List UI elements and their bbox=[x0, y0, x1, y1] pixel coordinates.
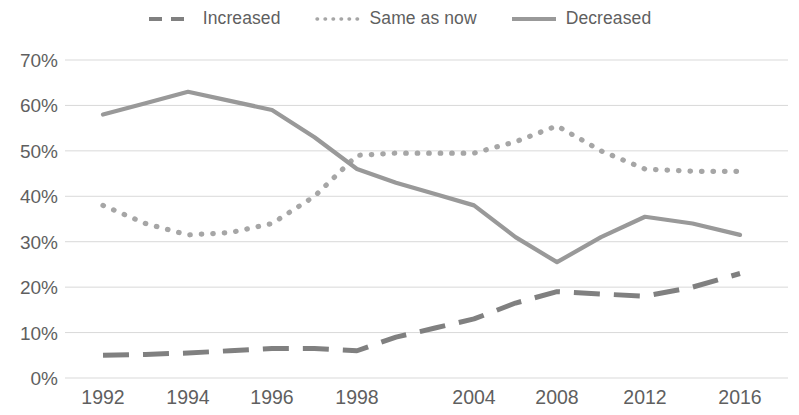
legend-label-decreased: Decreased bbox=[566, 10, 652, 28]
plot-area: 0%10%20%30%40%50%60%70% 1992199419961998… bbox=[0, 36, 799, 415]
x-axis-tick-label: 1992 bbox=[68, 388, 138, 408]
dotted-line-swatch bbox=[315, 14, 361, 24]
chart-legend: Increased Same as now Decreased bbox=[0, 2, 799, 36]
legend-item-same-as-now[interactable]: Same as now bbox=[315, 10, 477, 28]
y-axis-tick-label: 10% bbox=[0, 323, 58, 342]
x-axis-tick-label: 2008 bbox=[522, 388, 592, 408]
y-axis-tick-label: 40% bbox=[0, 187, 58, 206]
series-line-decreased bbox=[103, 92, 740, 262]
line-chart: Increased Same as now Decreased 0%10 bbox=[0, 0, 799, 415]
solid-line-swatch bbox=[511, 14, 557, 24]
y-axis-tick-label: 20% bbox=[0, 278, 58, 297]
x-axis-tick-label: 1994 bbox=[153, 388, 223, 408]
y-axis-tick-label: 70% bbox=[0, 51, 58, 70]
x-axis-tick-label: 1998 bbox=[322, 388, 392, 408]
x-axis-tick-label: 2012 bbox=[610, 388, 680, 408]
dashed-line-swatch bbox=[148, 14, 194, 24]
legend-item-increased[interactable]: Increased bbox=[148, 10, 281, 28]
legend-item-decreased[interactable]: Decreased bbox=[511, 10, 652, 28]
plot-canvas bbox=[0, 36, 799, 415]
y-axis-tick-label: 50% bbox=[0, 141, 58, 160]
y-axis-tick-label: 0% bbox=[0, 369, 58, 388]
series-line-increased bbox=[103, 274, 740, 356]
data-series-layer bbox=[103, 92, 740, 355]
y-axis-tick-label: 60% bbox=[0, 96, 58, 115]
y-axis-tick-label: 30% bbox=[0, 232, 58, 251]
legend-label-increased: Increased bbox=[203, 10, 281, 28]
x-axis-tick-label: 2016 bbox=[705, 388, 775, 408]
x-axis-tick-label: 1996 bbox=[237, 388, 307, 408]
legend-label-same-as-now: Same as now bbox=[370, 10, 477, 28]
x-axis-tick-label: 2004 bbox=[439, 388, 509, 408]
